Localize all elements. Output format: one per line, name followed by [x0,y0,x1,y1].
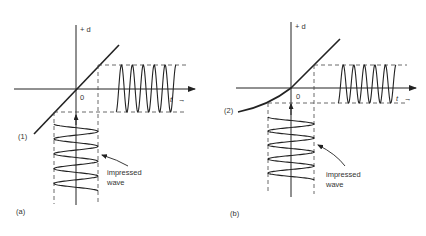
characteristic-curve-2 [238,39,340,112]
x-axis-arrow-a: → [178,95,186,104]
impressed-label-a-line2: wave [106,178,125,187]
panel-label-b: (b) [230,209,240,218]
impressed-pointer-arrow-b [318,145,345,166]
x-axis-arrow-b: → [404,94,412,103]
panel-label-a: (a) [16,207,26,216]
origin-label-a: 0 [80,93,84,102]
output-wave-b [338,65,396,103]
curve-label-2: (2) [224,106,234,115]
origin-label-b: 0 [296,92,300,101]
x-axis-label-b: t [396,94,399,103]
impressed-pointer-arrow-a [102,155,128,166]
impressed-label-b-line1: impressed [326,170,361,179]
y-axis-label-a: + d [80,25,91,34]
y-axis-label-b: + d [295,22,306,31]
figure-svg: + d 0 t → (1) impressed wave (a) + d 0 t… [0,0,426,236]
panel-a: + d 0 t → (1) impressed wave (a) [14,25,195,216]
curve-label-1: (1) [18,132,28,141]
panel-b: + d 0 t → (2) impressed wave (b) [224,22,416,218]
figure-canvas: + d 0 t → (1) impressed wave (a) + d 0 t… [0,0,426,236]
impressed-label-b-line2: wave [325,180,344,189]
impressed-label-a-line1: impressed [107,168,142,177]
